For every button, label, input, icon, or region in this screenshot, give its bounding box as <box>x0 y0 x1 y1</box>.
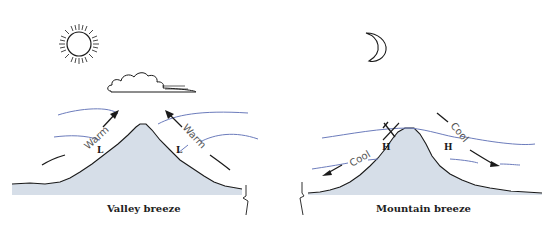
flow-label-valley-right: Warm <box>181 122 209 151</box>
caption-mountain-breeze: Mountain breeze <box>376 203 471 214</box>
caption-valley-breeze: Valley breeze <box>107 203 181 214</box>
pressure-label-mountain-right: H <box>444 142 453 152</box>
moon-icon <box>366 33 386 61</box>
break-mark-icon <box>243 185 248 215</box>
pressure-label-valley-left: L <box>97 145 104 155</box>
flow-label-mountain-left: Cool <box>348 148 373 169</box>
breeze-diagram: Warm Warm L L Cool Cool H H <box>0 0 552 227</box>
sun-icon <box>59 24 99 64</box>
pressure-label-valley-right: L <box>176 145 183 155</box>
cloud-icon <box>108 73 196 92</box>
break-mark-icon <box>300 182 304 215</box>
flow-label-mountain-right: Cool <box>448 120 471 144</box>
pressure-label-mountain-left: H <box>382 142 391 152</box>
